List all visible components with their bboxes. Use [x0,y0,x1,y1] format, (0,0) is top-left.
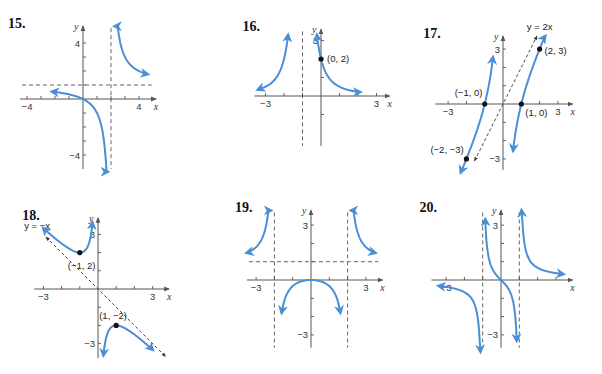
point-label: (2, 3) [545,45,567,56]
graph-15: 15.−444−4xy [8,16,159,172]
curve-branch [351,211,375,253]
y-tick-label: 4 [75,38,80,49]
point-label: (−1, 2) [68,260,96,271]
y-axis-label: y [301,205,307,216]
curve-branch [461,58,493,173]
curve-branch [513,36,545,150]
y-tick-label: −4 [69,150,80,161]
y-tick-label: −3 [297,329,308,340]
graph-18: 18.y = −x−333−3xy(−1, 2)(1, −2) [22,208,172,358]
x-axis-label: x [166,291,172,302]
x-tick-label: 3 [363,282,368,293]
y-tick-label: −3 [84,338,95,349]
point-label: (−2, −3) [430,144,463,155]
x-axis-label: x [153,101,159,112]
point-marker [519,101,524,106]
point-marker [114,323,119,328]
point-marker [464,156,469,161]
graph-20: 20.−33−3xy [419,200,575,351]
point-label: (1, −2) [99,310,127,321]
y-axis-label: y [311,24,317,35]
x-tick-label: −3 [251,282,262,293]
x-axis-label: x [570,106,576,117]
point-marker [482,101,487,106]
y-axis-label: y [493,31,499,42]
point-label: (1, 0) [525,107,547,118]
graph-number: 20. [419,200,437,215]
asymptote-label: y = 2x [527,21,553,32]
graph-16: 16.−333xy(0, 2) [242,19,392,146]
graph-number: 17. [423,26,441,41]
x-tick-label: 3 [374,98,379,109]
y-tick-label: 3 [303,220,308,231]
point-label: (0, 2) [327,53,349,64]
x-tick-label: −3 [443,106,454,117]
x-tick-label: 4 [136,101,141,112]
curve-branch [43,223,92,253]
x-tick-label: −3 [260,98,271,109]
x-tick-label: 3 [555,106,560,117]
curve-branch [247,211,271,253]
oblique-asymptote [475,36,537,160]
graph-number: 16. [242,19,260,34]
curve-branch [522,211,564,275]
y-axis-label: y [88,213,94,224]
y-axis-label: y [73,21,79,32]
y-axis-label: y [491,205,497,216]
y-tick-label: 3 [493,220,498,231]
point-marker [77,250,82,255]
x-axis-label: x [569,282,575,293]
point-marker [537,47,542,52]
graph-19: 19.−333−3xy [235,200,385,347]
curve-branch [439,286,481,352]
curve-branch [115,26,147,74]
point-marker [318,56,323,61]
x-tick-label: 3 [150,291,155,302]
curve-branch [104,325,153,355]
x-tick-label: −3 [38,291,49,302]
x-axis-label: x [379,282,385,293]
y-tick-label: −3 [487,329,498,340]
asymptote-label: y = −x [24,220,50,231]
curve-branch [258,35,288,89]
graph-17: 17.y = 2x−333−3xy(−1, 0)(1, 0)(2, 3)(−2,… [423,21,575,172]
x-tick-label: −4 [22,101,33,112]
y-tick-label: 3 [495,44,500,55]
x-axis-label: x [386,98,392,109]
graph-number: 19. [235,200,253,215]
graphs-figure: 15.−444−4xy 16.−333xy(0, 2) 17.y = 2x−33… [0,0,602,374]
y-tick-label: −3 [489,153,500,164]
point-label: (−1, 0) [455,87,483,98]
graph-number: 15. [8,16,26,31]
